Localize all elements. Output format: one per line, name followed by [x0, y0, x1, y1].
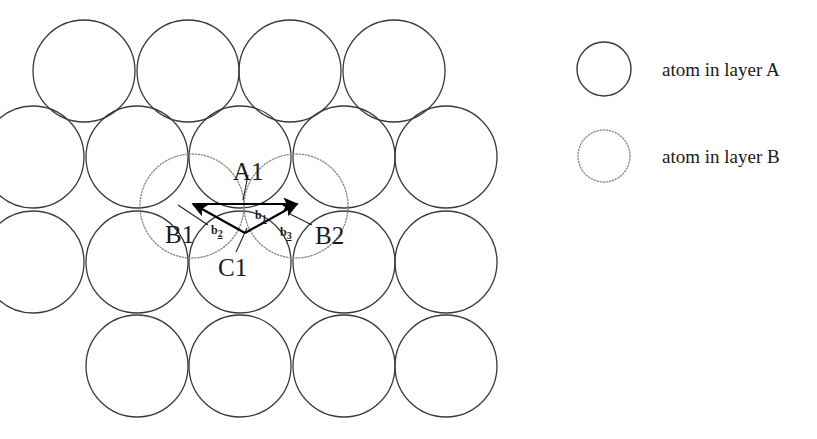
atom-layer-a	[189, 315, 291, 417]
leader-line-b2	[288, 213, 312, 225]
atom-layer-a	[86, 315, 188, 417]
legend-label-layer-a: atom in layer A	[662, 60, 780, 79]
legend-label-layer-b: atom in layer B	[662, 147, 780, 166]
legend-circle-layer-a	[577, 42, 631, 96]
atom-layer-a	[343, 20, 445, 122]
vector-label-b3: b3	[280, 226, 292, 242]
vector-label-b1-base: b	[255, 208, 262, 222]
figure-canvas: A1 B1 B2 C1 b1 b2 b3 atom in layer A ato…	[0, 0, 817, 439]
atom-layer-a	[239, 20, 341, 122]
legend-circle-layer-b	[578, 130, 630, 182]
site-label-a1: A1	[233, 159, 264, 184]
site-label-b2: B2	[315, 223, 344, 248]
atom-layer-a	[395, 315, 497, 417]
atom-layer-a	[33, 20, 135, 122]
vector-label-b1-sub: 1	[262, 213, 267, 224]
atom-layer-a	[137, 20, 239, 122]
vector-label-b1: b1	[255, 209, 267, 225]
atom-layer-a	[293, 315, 395, 417]
vector-label-b2-sub: 2	[218, 228, 223, 239]
vector-label-b3-base: b	[280, 225, 287, 239]
vector-label-b2-base: b	[211, 223, 218, 237]
vector-label-b3-sub: 3	[287, 230, 292, 241]
atom-layer-a	[189, 106, 291, 208]
legend-swatches	[577, 42, 631, 182]
layer-a-atoms	[0, 20, 497, 417]
atom-layer-a	[395, 211, 497, 313]
site-label-c1: C1	[218, 255, 247, 280]
atom-layer-a	[0, 211, 84, 313]
atom-layer-a	[395, 106, 497, 208]
atom-layer-a	[0, 106, 84, 208]
atom-layer-a	[86, 106, 188, 208]
atom-layer-a	[293, 106, 395, 208]
site-label-b1: B1	[165, 222, 194, 247]
vector-label-b2: b2	[211, 224, 223, 240]
